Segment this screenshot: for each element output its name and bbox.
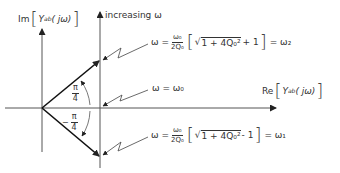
upper-angle-arc [81,81,90,105]
middle-pointer [103,90,148,106]
fraction: ω₀ 2Q₀ [171,34,184,51]
bracket-open: [ [30,10,37,28]
fraction: ω₀ 2Q₀ [171,127,184,144]
middle-equation: ω = ω₀ [152,84,184,93]
increasing-omega-label: increasing ω [105,11,162,20]
lower-angle-label: − π 4 [62,113,80,132]
lower-angle-arc [82,111,90,136]
imaginary-axis-label: Im [ Yab ( jω) ] [18,10,80,28]
lower-equation: ω = ω₀ 2Q₀ [ √1 + 4Q₀² - 1 ] = ω₁ [151,126,286,144]
upper-angle-label: π 4 [70,84,81,103]
bracket-close: ] [72,10,79,28]
lower-pointer [103,137,148,155]
upper-equation: ω = ω₀ 2Q₀ [ √1 + 4Q₀² + 1 ] = ω₂ [151,33,291,51]
real-axis-label: Re [ Yab ( jω) ] [262,82,324,100]
upper-pointer [103,44,148,60]
